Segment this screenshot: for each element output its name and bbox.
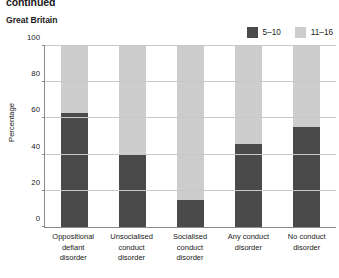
x-axis-label-line: disorder (45, 253, 101, 264)
bar-segment (235, 144, 262, 227)
chart-page: continued Great Britain 5–1011–16 Percen… (0, 0, 339, 278)
y-tick-label: 60 (31, 105, 40, 114)
bar-segment (61, 46, 88, 113)
x-axis-label-line: Oppositional (45, 232, 101, 243)
x-axis-label: Unsocialisedconductdisorder (104, 232, 160, 264)
bar-segment (177, 46, 204, 200)
x-axis-label-line: disorder (162, 253, 218, 264)
y-tick-label: 0 (36, 214, 40, 223)
x-axis-label-line: Socialised (162, 232, 218, 243)
y-tick-mark (42, 190, 45, 191)
bar-segment (119, 46, 146, 155)
x-axis-label-line: disorder (220, 243, 276, 254)
bar-column (61, 46, 88, 227)
plot-area: 020406080100 (44, 46, 336, 228)
y-tick-label: 100 (27, 33, 40, 42)
x-axis-label-line: Unsocialised (104, 232, 160, 243)
bar-column (293, 46, 320, 227)
y-tick-mark (42, 117, 45, 118)
gridline (45, 154, 336, 155)
y-tick-mark (42, 154, 45, 155)
x-axis-labels: OppositionaldefiantdisorderUnsocialisedc… (44, 232, 336, 264)
y-tick-label: 40 (31, 141, 40, 150)
bar-segment (293, 46, 320, 127)
x-axis-label-line: conduct (104, 243, 160, 254)
gridline (45, 190, 336, 191)
x-axis-label-line: No conduct (279, 232, 335, 243)
bar-group (45, 46, 336, 227)
y-tick-label: 20 (31, 177, 40, 186)
bar-segment (235, 46, 262, 144)
y-tick-mark (42, 81, 45, 82)
x-axis-label: Oppositionaldefiantdisorder (45, 232, 101, 264)
y-tick-mark (42, 226, 45, 227)
bar-segment (293, 127, 320, 227)
x-axis-label-line: Any conduct (220, 232, 276, 243)
y-tick-mark (42, 45, 45, 46)
gridline (45, 45, 336, 46)
gridline (45, 117, 336, 118)
bar-column (119, 46, 146, 227)
x-axis-label-line: conduct (162, 243, 218, 254)
x-axis-label-line: disorder (104, 253, 160, 264)
y-axis-title: Percentage (7, 88, 16, 158)
bar-column (177, 46, 204, 227)
x-axis-label: Socialisedconductdisorder (162, 232, 218, 264)
y-tick-label: 80 (31, 69, 40, 78)
x-axis-label-line: disorder (279, 243, 335, 254)
bar-segment (177, 200, 204, 227)
gridline (45, 81, 336, 82)
plot-wrapper: Percentage 020406080100 Oppositionaldefi… (0, 0, 339, 278)
bar-segment (61, 113, 88, 227)
bar-column (235, 46, 262, 227)
x-axis-label: No conductdisorder (279, 232, 335, 264)
x-axis-label: Any conductdisorder (220, 232, 276, 264)
x-axis-label-line: defiant (45, 243, 101, 254)
